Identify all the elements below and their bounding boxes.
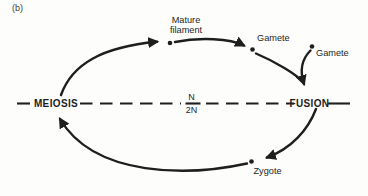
arc-mature-filament-to-gamete: [175, 39, 244, 45]
arc-gamete-to-fusion: [256, 54, 303, 83]
label-zygote: Zygote: [254, 166, 282, 176]
arc-meiosis-to-mature-filament: [61, 42, 157, 95]
figure-label: (b): [12, 3, 23, 13]
stage-dot-gamete-top: [250, 47, 255, 52]
ploidy-denominator: 2N: [186, 105, 198, 115]
arc-fusion-to-zygote: [267, 109, 316, 158]
label-fusion: FUSION: [290, 99, 330, 109]
ploidy-numerator: N: [188, 92, 195, 102]
label-meiosis: MEIOSIS: [34, 99, 78, 109]
stage-dot-mature-filament: [168, 41, 173, 46]
arc-zygote-to-meiosis: [60, 119, 247, 171]
stage-dot-gamete-right: [310, 44, 315, 49]
life-cycle-diagram: (b) Mature filament Gamete Gamete MEIOSI…: [0, 0, 368, 196]
label-gamete-right: Gamete: [316, 48, 349, 58]
stage-dot-zygote: [249, 159, 254, 164]
label-mature-filament: Mature filament: [170, 15, 202, 35]
label-gamete-top: Gamete: [257, 33, 290, 43]
arc-gamete-right-to-fusion: [302, 51, 311, 85]
